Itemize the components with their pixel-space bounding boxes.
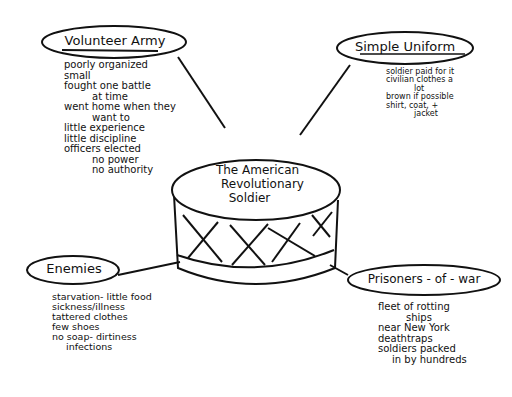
center-title-line-2: Revolutionary (195, 177, 320, 191)
note: fought one battle (64, 81, 176, 92)
note: poorly organized (64, 60, 176, 71)
note: in by hundreds (378, 355, 467, 366)
note: little experience (64, 123, 176, 134)
note: near New York (378, 323, 467, 334)
note: infections (52, 342, 152, 352)
center-topic: The American Revolutionary Soldier (195, 163, 320, 205)
center-title-line-1: The American (195, 163, 320, 177)
note: went home when they (64, 102, 176, 113)
note: fleet of rotting (378, 302, 467, 313)
note: officers elected (64, 144, 176, 155)
connector-prisoners (330, 265, 348, 275)
connector-simple-uniform (300, 65, 350, 135)
connector-volunteer-army (178, 57, 225, 128)
notes-volunteer-army: poorly organized small fought one battle… (64, 60, 176, 176)
note: jacket (386, 110, 454, 118)
underline-volunteer-army (62, 50, 158, 51)
notes-prisoners-of-war: fleet of rotting ships near New York dea… (378, 302, 467, 365)
note: no authority (64, 165, 176, 176)
center-title-line-3: Soldier (195, 191, 320, 205)
node-title-simple-uniform: Simple Uniform (340, 39, 470, 54)
connector-enemies (118, 262, 180, 275)
notes-enemies: starvation- little food sickness/illness… (52, 292, 152, 352)
node-title-enemies: Enemies (34, 261, 114, 276)
node-title-volunteer-army: Volunteer Army (50, 33, 180, 48)
node-title-prisoners-of-war: Prisoners - of - war (352, 272, 496, 286)
note: soldiers packed (378, 344, 467, 355)
notes-simple-uniform: soldier paid for it civilian clothes a l… (386, 68, 454, 118)
